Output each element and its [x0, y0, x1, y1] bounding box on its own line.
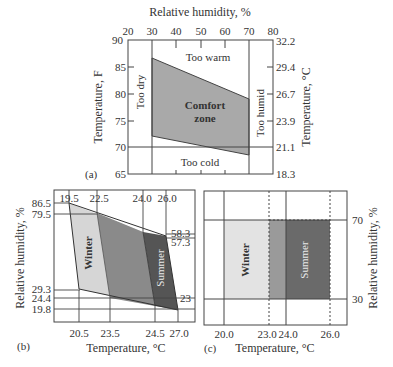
panel-c-label: (c): [204, 342, 217, 355]
tick-label: 18.3: [276, 168, 296, 180]
panel-a-top-ticks: 20 30 40 50 60 70 80: [123, 25, 280, 37]
tick-label: 70: [244, 25, 256, 37]
tick-label: 29.4: [276, 61, 296, 73]
overlap-region: [269, 220, 286, 299]
panel-a-left-ticks: 90 85 80 75 70 65: [112, 34, 127, 180]
tick-label: 32.2: [276, 35, 295, 47]
panel-a-left-axis-title: Temperature, F: [91, 70, 105, 143]
tick-label: 79.5: [32, 208, 52, 220]
too-warm-label: Too warm: [186, 51, 231, 63]
panel-b-top-ticks: 19.5 22.5 24.0 26.0: [59, 192, 177, 204]
tick-label: 26.0: [157, 192, 177, 204]
tick-label: 23.5: [100, 327, 120, 339]
winter-label: Winter: [239, 243, 251, 277]
panel-b-left-ticks: 86.5 79.5 29.3 24.4 19.8: [32, 197, 52, 315]
panel-c-y-axis-title: Relative humidity, %: [366, 207, 380, 309]
tick-label: 30: [147, 25, 159, 37]
tick-label: 23: [180, 292, 192, 304]
tick-label: 19.5: [59, 192, 79, 204]
tick-label: 70: [115, 141, 127, 153]
panel-b-y-axis-title: Relative humidity, %: [13, 207, 27, 309]
summer-label: Summer: [298, 241, 310, 279]
tick-label: 75: [115, 115, 127, 127]
comfort-zone-label-2: zone: [194, 112, 216, 124]
panel-b-label: (b): [17, 340, 30, 353]
panel-c: 20.0 23.0 24.0 26.0 70 30 (c) Temperatur…: [204, 191, 380, 355]
tick-label: 50: [196, 25, 208, 37]
tick-label: 60: [220, 25, 232, 37]
tick-label: 21.1: [276, 141, 295, 153]
tick-label: 24.0: [132, 192, 152, 204]
tick-label: 90: [112, 34, 124, 46]
panel-c-bottom-ticks: 20.0 23.0 24.0 26.0: [214, 328, 340, 340]
too-dry-label: Too dry: [134, 74, 146, 109]
panel-c-right-ticks: 70 30: [352, 214, 364, 305]
panel-a: Relative humidity, % 20 30 40 50 60 70 8…: [85, 5, 313, 181]
tick-label: 24.5: [145, 327, 165, 339]
panel-a-right-ticks: 32.2 29.4 26.7 23.9 21.1 18.3: [276, 35, 296, 180]
panel-b-x-axis-title: Temperature, °C: [86, 341, 165, 355]
tick-label: 22.5: [89, 192, 109, 204]
panel-c-x-axis-title: Temperature, °C: [235, 341, 314, 355]
panel-a-top-axis-title: Relative humidity, %: [149, 5, 251, 19]
panel-a-right-axis-title: Temperature, °C: [299, 67, 313, 146]
tick-label: 85: [115, 61, 127, 73]
tick-label: 57.3: [171, 236, 191, 248]
comfort-zone-figure: Relative humidity, % 20 30 40 50 60 70 8…: [0, 0, 393, 367]
tick-label: 26.0: [320, 328, 340, 340]
panel-b-bottom-ticks: 20.5 23.5 24.5 27.0: [69, 327, 189, 339]
too-cold-label: Too cold: [181, 156, 220, 168]
tick-label: 23.9: [276, 115, 296, 127]
tick-label: 70: [352, 214, 364, 226]
tick-label: 20.0: [214, 328, 234, 340]
tick-label: 30: [352, 293, 364, 305]
winter-label: Winter: [82, 236, 94, 270]
tick-label: 80: [115, 88, 127, 100]
tick-label: 20: [123, 25, 135, 37]
tick-label: 19.8: [32, 303, 52, 315]
panel-b: 19.5 22.5 24.0 26.0 86.5 79.5 29.3 24.4 …: [13, 190, 195, 355]
tick-label: 24.0: [278, 328, 298, 340]
too-humid-label: Too humid: [254, 89, 266, 137]
tick-label: 40: [171, 25, 183, 37]
summer-label: Summer: [154, 249, 166, 287]
panel-a-label: (a): [85, 168, 98, 181]
tick-label: 26.7: [276, 88, 296, 100]
tick-label: 27.0: [169, 327, 189, 339]
tick-label: 20.5: [69, 327, 89, 339]
tick-label: 23.0: [257, 328, 277, 340]
comfort-zone-label-1: Comfort: [185, 99, 226, 111]
tick-label: 65: [115, 168, 127, 180]
